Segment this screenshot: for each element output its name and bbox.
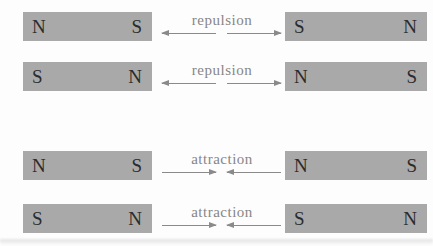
pole-label: N <box>32 12 46 41</box>
bar-magnet: S N <box>23 62 152 91</box>
bar-magnet: N S <box>23 12 152 41</box>
pole-label: N <box>128 204 142 233</box>
magnet-pair-row: S N repulsion N S <box>0 62 433 91</box>
pole-label: S <box>294 204 305 233</box>
force-arrow-right-icon <box>227 33 281 34</box>
pole-label: N <box>294 151 308 180</box>
pole-label: N <box>32 151 46 180</box>
magnet-forces-diagram: N S repulsion S N S N repulsion N S N S … <box>0 0 433 246</box>
force-arrow-left-icon <box>162 83 216 84</box>
force-arrow-right-icon <box>227 83 281 84</box>
bar-magnet: N S <box>285 62 427 91</box>
pole-label: S <box>131 12 142 41</box>
force-arrow-left-icon <box>162 33 216 34</box>
pole-label: N <box>403 204 417 233</box>
force-label: attraction <box>152 151 292 167</box>
bar-magnet: S N <box>23 204 152 233</box>
bar-magnet: S N <box>285 204 427 233</box>
pole-label: N <box>128 62 142 91</box>
force-label: repulsion <box>152 62 292 78</box>
pole-label: N <box>294 62 308 91</box>
magnet-pair-row: N S attraction N S <box>0 151 433 180</box>
pole-label: S <box>406 151 417 180</box>
bar-magnet: N S <box>285 151 427 180</box>
bar-magnet: N S <box>23 151 152 180</box>
force-arrow-right-icon <box>227 172 281 173</box>
bar-magnet: S N <box>285 12 427 41</box>
force-arrow-right-icon <box>227 225 281 226</box>
pole-label: S <box>131 151 142 180</box>
force-label: attraction <box>152 204 292 220</box>
pole-label: N <box>403 12 417 41</box>
force-arrow-left-icon <box>162 225 216 226</box>
magnet-pair-row: S N attraction S N <box>0 204 433 233</box>
pole-label: S <box>294 12 305 41</box>
pole-label: S <box>406 62 417 91</box>
page-scan-shadow <box>0 239 433 245</box>
force-arrow-left-icon <box>162 172 216 173</box>
magnet-pair-row: N S repulsion S N <box>0 12 433 41</box>
pole-label: S <box>32 204 43 233</box>
pole-label: S <box>32 62 43 91</box>
force-label: repulsion <box>152 12 292 28</box>
